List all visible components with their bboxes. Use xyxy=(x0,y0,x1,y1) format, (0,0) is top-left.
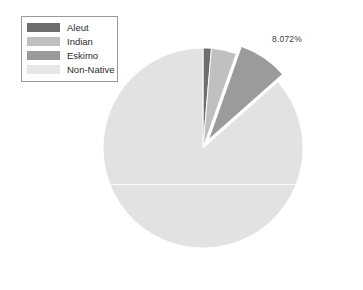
legend-item-non-native[interactable]: Non-Native xyxy=(27,63,112,76)
legend-label-non-native: Non-Native xyxy=(67,64,115,75)
legend-label-aleut: Aleut xyxy=(67,22,89,33)
legend-swatch-indian xyxy=(27,37,60,46)
chart-legend: Aleut Indian Eskimo Non-Native xyxy=(21,16,118,82)
pie-chart-figure: 8.072% Aleut Indian Eskimo Non-Native xyxy=(0,0,363,290)
legend-swatch-aleut xyxy=(27,23,60,32)
legend-label-eskimo: Eskimo xyxy=(67,50,98,61)
slice-data-label-eskimo: 8.072% xyxy=(272,34,302,44)
legend-item-eskimo[interactable]: Eskimo xyxy=(27,49,112,62)
legend-swatch-eskimo xyxy=(27,51,60,60)
legend-item-aleut[interactable]: Aleut xyxy=(27,21,112,34)
legend-item-indian[interactable]: Indian xyxy=(27,35,112,48)
legend-swatch-non-native xyxy=(27,65,60,74)
pie-slice-group xyxy=(103,46,303,248)
legend-label-indian: Indian xyxy=(67,36,93,47)
